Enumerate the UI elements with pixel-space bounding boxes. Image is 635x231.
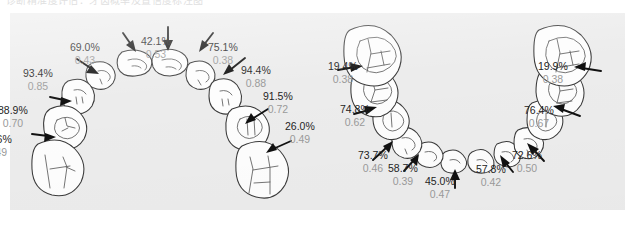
label-score: 0.49: [0, 146, 12, 158]
label-score: 0.38: [208, 54, 238, 66]
tooth-lower-central-left: [441, 150, 467, 173]
tooth-upper-molar-right: [236, 142, 289, 199]
label-score: 0.88: [241, 77, 271, 89]
arrow-to-upper-central-left: [123, 33, 136, 52]
label-lower-canine-right: 72.6% 0.50: [512, 150, 542, 174]
label-upper-lateral-incisor-left: 93.4% 0.85: [23, 68, 53, 92]
label-percent: 58.7%: [388, 163, 418, 175]
label-lower-central-incisor: 45.0% 0.47: [425, 176, 455, 200]
label-percent: 73.7%: [358, 150, 388, 162]
label-score: 0.70: [0, 117, 28, 129]
label-score: 0.62: [340, 116, 370, 128]
label-score: 0.53: [141, 48, 171, 60]
label-lower-lateral-incisor-left: 58.7% 0.39: [388, 163, 418, 187]
label-percent: 91.5%: [263, 91, 293, 103]
label-score: 0.39: [388, 175, 418, 187]
label-percent: 57.8%: [476, 164, 506, 176]
label-upper-premolar-right: 91.5% 0.72: [263, 91, 293, 115]
label-percent: 32.6%: [0, 134, 12, 146]
figure-panel: 42.1% 0.53 69.0% 0.43 75.1% 0.38 93.4% 0…: [10, 13, 625, 210]
label-percent: 19.4%: [328, 61, 358, 73]
label-upper-lateral-incisor-right: 75.1% 0.38: [208, 42, 238, 66]
label-score: 0.72: [263, 103, 293, 115]
label-percent: 93.4%: [23, 68, 53, 80]
label-percent: 72.6%: [512, 150, 542, 162]
label-score: 0.47: [425, 188, 455, 200]
label-percent: 69.0%: [70, 42, 100, 54]
label-percent: 42.1%: [141, 36, 171, 48]
clipped-document-heading: 诊断精准度评估：牙齿概率及置信度标注图: [6, 0, 204, 6]
label-lower-lateral-incisor-right: 57.8% 0.42: [476, 164, 506, 188]
label-percent: 76.4%: [524, 105, 554, 117]
label-percent: 75.1%: [208, 42, 238, 54]
label-upper-premolar-left: 32.6% 0.49: [0, 134, 12, 158]
label-lower-premolar-right: 76.4% 0.67: [524, 105, 554, 129]
label-lower-second-premolar-left: 19.4% 0.38: [328, 61, 358, 85]
label-percent: 19.9%: [538, 61, 568, 73]
label-lower-canine-left: 73.7% 0.46: [358, 150, 388, 174]
label-score: 0.50: [512, 162, 542, 174]
label-upper-central-incisor-left: 69.0% 0.43: [70, 42, 100, 66]
label-score: 0.38: [538, 73, 568, 85]
label-upper-canine-right: 94.4% 0.88: [241, 65, 271, 89]
label-score: 0.42: [476, 176, 506, 188]
label-percent: 74.8%: [340, 104, 370, 116]
label-lower-premolar-left: 74.8% 0.62: [340, 104, 370, 128]
label-score: 0.43: [70, 54, 100, 66]
label-percent: 94.4%: [241, 65, 271, 77]
label-upper-central-incisor-right: 42.1% 0.53: [141, 36, 171, 60]
label-score: 0.85: [23, 80, 53, 92]
figure-stage: 诊断精准度评估：牙齿概率及置信度标注图: [0, 0, 635, 231]
label-score: 0.46: [358, 162, 388, 174]
label-score: 0.38: [328, 73, 358, 85]
label-score: 0.67: [524, 117, 554, 129]
label-percent: 45.0%: [425, 176, 455, 188]
label-percent: 88.9%: [0, 105, 28, 117]
tooth-upper-molar-left: [32, 140, 84, 196]
label-upper-canine-left: 88.9% 0.70: [0, 105, 28, 129]
label-lower-second-premolar-right: 19.9% 0.38: [538, 61, 568, 85]
